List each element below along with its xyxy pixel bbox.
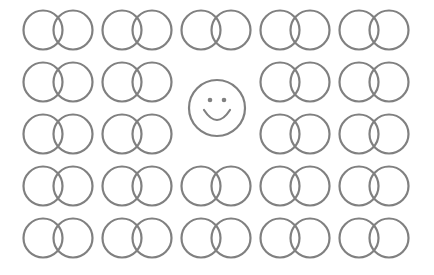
ring-right [291,167,330,206]
ring-right [212,11,251,50]
ring-right [291,115,330,154]
ring-right [212,167,251,206]
ring-left [182,11,221,50]
smiley-left-eye [208,98,213,103]
interlocking-rings-icon [103,11,172,50]
ring-right [54,219,93,258]
interlocking-rings-icon [24,11,93,50]
interlocking-rings-icon [261,167,330,206]
ring-left [261,115,300,154]
puzzle-scene [0,0,434,275]
ring-left [24,63,63,102]
ring-left [182,167,221,206]
interlocking-rings-icon [24,219,93,258]
interlocking-rings-icon [261,219,330,258]
interlocking-rings-icon [103,63,172,102]
ring-left [261,11,300,50]
interlocking-rings-icon [103,219,172,258]
ring-left [340,219,379,258]
ring-left [103,115,142,154]
ring-right [133,11,172,50]
interlocking-rings-icon [103,167,172,206]
ring-right [370,11,409,50]
interlocking-rings-icon [261,63,330,102]
ring-right [133,115,172,154]
interlocking-rings-icon [182,219,251,258]
ring-right [370,219,409,258]
interlocking-rings-icon [340,63,409,102]
ring-left [340,167,379,206]
ring-left [340,115,379,154]
ring-left [103,63,142,102]
interlocking-rings-icon [24,115,93,154]
smiley-mouth [204,110,230,120]
interlocking-rings-icon [340,167,409,206]
smiley-face-icon [189,80,245,136]
ring-right [54,115,93,154]
ring-right [54,63,93,102]
ring-right [370,63,409,102]
interlocking-rings-icon [340,219,409,258]
ring-left [24,115,63,154]
interlocking-rings-icon [340,115,409,154]
ring-right [291,63,330,102]
interlocking-rings-icon [182,167,251,206]
interlocking-rings-icon [24,167,93,206]
interlocking-rings-icon [340,11,409,50]
ring-left [261,219,300,258]
smiley-outline [189,80,245,136]
interlocking-rings-icon [261,115,330,154]
ring-right [291,219,330,258]
ring-right [133,63,172,102]
ring-left [24,219,63,258]
ring-left [24,11,63,50]
ring-right [54,167,93,206]
ring-right [54,11,93,50]
interlocking-rings-icon [261,11,330,50]
interlocking-rings-icon [24,63,93,102]
ring-left [340,11,379,50]
ring-right [133,167,172,206]
ring-left [340,63,379,102]
ring-left [103,167,142,206]
ring-right [370,115,409,154]
interlocking-rings-icon [182,11,251,50]
ring-left [182,219,221,258]
ring-right [212,219,251,258]
ring-right [370,167,409,206]
ring-left [261,63,300,102]
ring-left [261,167,300,206]
smiley-right-eye [222,98,227,103]
ring-left [24,167,63,206]
ring-right [291,11,330,50]
ring-right [133,219,172,258]
ring-left [103,219,142,258]
interlocking-rings-icon [103,115,172,154]
ring-left [103,11,142,50]
